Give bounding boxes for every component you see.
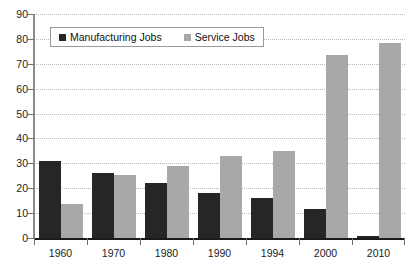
x-axis-label-2010: 2010 — [352, 248, 405, 259]
y-axis-label-20: 20 — [2, 183, 28, 194]
bar-service-1990 — [220, 156, 242, 238]
x-tick-1970 — [87, 238, 140, 245]
bar-manufacturing-1990 — [198, 193, 220, 238]
legend-label-service: Service Jobs — [195, 32, 255, 43]
bar-group-2000 — [299, 14, 352, 238]
x-tick-1960 — [34, 238, 87, 245]
x-tick-1994 — [246, 238, 299, 245]
y-axis-label-70: 70 — [2, 59, 28, 70]
bar-service-1960 — [61, 204, 83, 238]
bar-manufacturing-1980 — [145, 183, 167, 238]
x-axis-label-1994: 1994 — [246, 248, 299, 259]
bar-group-1970 — [87, 14, 140, 238]
x-axis-labels: 1960197019801990199420002010 — [34, 248, 405, 259]
x-axis-label-1990: 1990 — [193, 248, 246, 259]
x-tick-1980 — [140, 238, 193, 245]
legend-label-manufacturing: Manufacturing Jobs — [70, 32, 162, 43]
y-axis-label-10: 10 — [2, 208, 28, 219]
legend-swatch-manufacturing-icon — [59, 34, 66, 41]
bar-manufacturing-2000 — [304, 209, 326, 238]
y-axis-labels: 0102030405060708090 — [0, 0, 28, 269]
y-axis-label-60: 60 — [2, 83, 28, 94]
y-axis-label-90: 90 — [2, 9, 28, 20]
x-axis-label-1980: 1980 — [140, 248, 193, 259]
bar-service-2000 — [326, 55, 348, 238]
y-axis-label-0: 0 — [2, 233, 28, 244]
y-axis-label-50: 50 — [2, 108, 28, 119]
bar-group-1990 — [193, 14, 246, 238]
bar-service-2010 — [379, 43, 401, 238]
bar-groups — [34, 14, 405, 238]
bar-group-1960 — [34, 14, 87, 238]
bar-manufacturing-1970 — [92, 173, 114, 238]
y-axis-label-80: 80 — [2, 34, 28, 45]
x-axis-label-1960: 1960 — [34, 248, 87, 259]
x-axis-ticks — [34, 238, 405, 245]
bar-service-1970 — [114, 175, 136, 238]
bar-service-1994 — [273, 151, 295, 238]
bar-group-2010 — [352, 14, 405, 238]
bar-service-1980 — [167, 166, 189, 238]
y-axis-label-30: 30 — [2, 158, 28, 169]
bar-group-1980 — [140, 14, 193, 238]
legend-swatch-service-icon — [184, 34, 191, 41]
x-axis-label-1970: 1970 — [87, 248, 140, 259]
bar-group-1994 — [246, 14, 299, 238]
x-axis-label-2000: 2000 — [299, 248, 352, 259]
x-tick-2000 — [299, 238, 352, 245]
bar-manufacturing-1960 — [39, 161, 61, 238]
legend-entry-manufacturing: Manufacturing Jobs — [59, 32, 162, 43]
bar-chart: 0102030405060708090 19601970198019901994… — [0, 0, 414, 269]
legend-entry-service: Service Jobs — [184, 32, 255, 43]
bar-manufacturing-1994 — [251, 198, 273, 238]
x-tick-1990 — [193, 238, 246, 245]
y-axis-label-40: 40 — [2, 133, 28, 144]
chart-legend: Manufacturing Jobs Service Jobs — [50, 27, 264, 47]
x-tick-2010 — [352, 238, 405, 245]
